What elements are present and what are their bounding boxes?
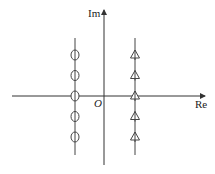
imaginary-axis-label: Im	[88, 7, 101, 19]
complex-plane-diagram: Im Re O	[0, 0, 215, 174]
origin-label: O	[94, 97, 102, 109]
real-axis-label: Re	[195, 98, 207, 110]
